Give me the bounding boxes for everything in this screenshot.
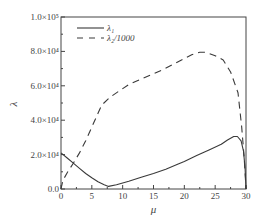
y-axis: 0.02.0×10⁴4.0×10⁴6.0×10⁴8.0×10⁴1.0×10⁵ <box>31 12 65 194</box>
x-tick-label: 5 <box>90 191 95 201</box>
y-tick-label: 4.0×10⁴ <box>31 115 59 125</box>
y-tick-label: 1.0×10⁵ <box>31 12 59 22</box>
series-lambda2-line <box>61 52 246 189</box>
series-layer <box>61 52 246 189</box>
line-chart: 0.02.0×10⁴4.0×10⁴6.0×10⁴8.0×10⁴1.0×10⁵ 0… <box>0 0 256 219</box>
y-tick-label: 0.0 <box>48 184 60 194</box>
x-tick-label: 0 <box>59 191 64 201</box>
legend-label-lambda2: λ₂/1000 <box>106 33 135 43</box>
plot-border <box>61 17 246 189</box>
legend: λ₁ λ₂/1000 <box>77 23 135 43</box>
x-tick-label: 15 <box>149 191 159 201</box>
x-tick-label: 10 <box>118 191 128 201</box>
plot-frame <box>61 17 246 189</box>
y-tick-label: 6.0×10⁴ <box>31 81 59 91</box>
x-tick-label: 20 <box>180 191 190 201</box>
x-axis-title: μ <box>150 203 157 215</box>
y-tick-label: 8.0×10⁴ <box>31 46 59 56</box>
x-tick-label: 25 <box>211 191 221 201</box>
y-tick-label: 2.0×10⁴ <box>31 150 59 160</box>
y-axis-title: λ <box>7 101 19 107</box>
x-tick-label: 30 <box>242 191 252 201</box>
series-lambda1-line <box>61 137 246 190</box>
legend-label-lambda1: λ₁ <box>106 23 114 33</box>
x-axis: 051015202530 <box>59 185 251 201</box>
